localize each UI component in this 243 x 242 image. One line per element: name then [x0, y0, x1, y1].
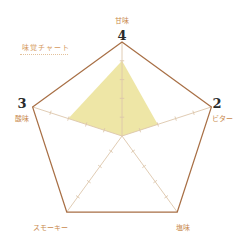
- axis-label-salty: 塩味: [176, 222, 190, 232]
- value-area: [68, 61, 157, 136]
- axis-label-sweet: 甘味: [115, 15, 129, 25]
- value-bitter: 2: [212, 96, 221, 111]
- value-sour: 3: [17, 96, 26, 111]
- axis-label-sour: 酸味: [15, 113, 29, 123]
- axis-lines: [33, 42, 212, 212]
- axis-label-smoky: スモーキー: [33, 222, 68, 232]
- axis-label-bitter: ビター: [212, 113, 233, 123]
- value-sweet: 4: [117, 28, 126, 43]
